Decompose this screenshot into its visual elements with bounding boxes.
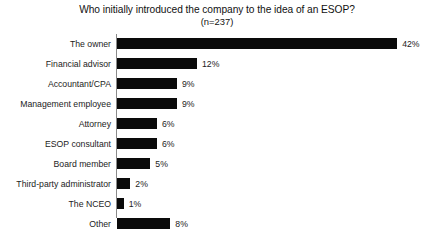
- value-label: 8%: [175, 214, 188, 233]
- bar: [117, 58, 197, 69]
- bar: [117, 138, 157, 149]
- plot-area: The owner42%Financial advisor12%Accounta…: [0, 34, 434, 230]
- bar-row: ESOP consultant6%: [0, 134, 434, 154]
- chart-title: Who initially introduced the company to …: [0, 3, 434, 16]
- bar: [117, 118, 157, 129]
- bar: [117, 178, 130, 189]
- bar-row: Attorney6%: [0, 114, 434, 134]
- bar: [117, 198, 124, 209]
- value-label: 5%: [155, 154, 168, 174]
- bar-row: The NCEO1%: [0, 194, 434, 214]
- bar-row: Third-party administrator2%: [0, 174, 434, 194]
- value-label: 2%: [135, 174, 148, 194]
- chart-header: Who initially introduced the company to …: [0, 0, 434, 28]
- value-label: 9%: [182, 94, 195, 114]
- category-label: Attorney: [0, 114, 111, 134]
- category-label: Accountant/CPA: [0, 74, 111, 94]
- bar: [117, 218, 170, 229]
- value-label: 42%: [402, 34, 419, 54]
- value-label: 12%: [202, 54, 219, 74]
- bar-row: Board member5%: [0, 154, 434, 174]
- bar-row: The owner42%: [0, 34, 434, 54]
- chart-subtitle: (n=237): [0, 16, 434, 28]
- value-label: 6%: [162, 114, 175, 134]
- category-label: Other: [0, 214, 111, 233]
- value-label: 1%: [129, 194, 142, 214]
- bar-rows: The owner42%Financial advisor12%Accounta…: [0, 34, 434, 233]
- category-label: Management employee: [0, 94, 111, 114]
- category-label: Third-party administrator: [0, 174, 111, 194]
- bar-row: Financial advisor12%: [0, 54, 434, 74]
- category-label: ESOP consultant: [0, 134, 111, 154]
- category-label: Financial advisor: [0, 54, 111, 74]
- bar: [117, 78, 177, 89]
- bar: [117, 38, 397, 49]
- category-label: The owner: [0, 34, 111, 54]
- value-label: 9%: [182, 74, 195, 94]
- bar-row: Other8%: [0, 214, 434, 233]
- bar-row: Management employee9%: [0, 94, 434, 114]
- category-label: The NCEO: [0, 194, 111, 214]
- bar: [117, 98, 177, 109]
- bar: [117, 158, 150, 169]
- category-label: Board member: [0, 154, 111, 174]
- chart-container: Who initially introduced the company to …: [0, 0, 434, 233]
- value-label: 6%: [162, 134, 175, 154]
- bar-row: Accountant/CPA9%: [0, 74, 434, 94]
